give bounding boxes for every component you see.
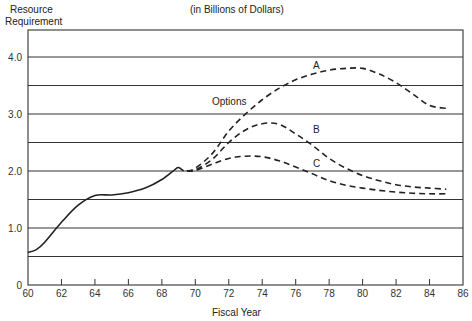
x-tick-label: 84 — [424, 288, 436, 299]
x-tick-label: 68 — [156, 288, 168, 299]
series-line-a — [187, 68, 446, 171]
y-tick-label: 1.0 — [8, 223, 22, 234]
y-tick-label: 0 — [16, 280, 22, 291]
x-tick-label: 66 — [123, 288, 135, 299]
series-label-b: B — [313, 124, 320, 135]
x-tick-label: 82 — [391, 288, 403, 299]
x-tick-label: 62 — [56, 288, 68, 299]
line-chart: 606264666870727476788082848601.02.03.04.… — [0, 0, 472, 321]
x-tick-label: 64 — [89, 288, 101, 299]
series-label-c: C — [313, 158, 320, 169]
series-label-a: A — [313, 60, 320, 71]
plot-frame — [28, 30, 463, 285]
x-tick-label: 60 — [22, 288, 34, 299]
annotation-options: Options — [212, 96, 246, 107]
x-tick-label: 78 — [324, 288, 336, 299]
x-tick-label: 80 — [357, 288, 369, 299]
x-tick-label: 86 — [457, 288, 469, 299]
y-tick-label: 3.0 — [8, 109, 22, 120]
y-tick-label: 4.0 — [8, 52, 22, 63]
x-axis-label: Fiscal Year — [212, 307, 261, 318]
y-tick-label: 2.0 — [8, 166, 22, 177]
x-tick-label: 74 — [257, 288, 269, 299]
series-line-historical — [28, 167, 184, 252]
x-tick-label: 72 — [223, 288, 235, 299]
x-tick-label: 76 — [290, 288, 302, 299]
x-tick-label: 70 — [190, 288, 202, 299]
